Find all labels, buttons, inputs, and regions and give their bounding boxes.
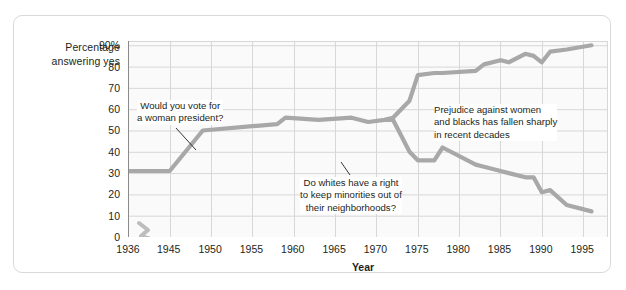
y-tick-label: 20 — [76, 189, 120, 199]
y-tick-label: 50 — [76, 125, 120, 135]
y-tick-label: 70 — [76, 83, 120, 93]
x-tick-label: 1980 — [436, 243, 480, 255]
y-tick-label: 40 — [76, 147, 120, 157]
y-tick-label: 30 — [76, 168, 120, 178]
x-tick-label: 1960 — [271, 243, 315, 255]
y-tick-label: 80 — [76, 62, 120, 72]
y-tick-label: 60 — [76, 104, 120, 114]
x-tick-label: 1955 — [229, 243, 273, 255]
white-neighborhoods-annotation: Do whites have a right to keep minoritie… — [300, 177, 402, 214]
x-tick-label: 1950 — [188, 243, 232, 255]
axis-break-icon — [139, 223, 168, 237]
x-tick-label: 1970 — [353, 243, 397, 255]
figure-container: Percentage answering yes 010203040506070… — [0, 0, 626, 290]
prejudice-annotation: Prejudice against women and blacks has f… — [434, 104, 557, 141]
x-tick-label: 1995 — [560, 243, 604, 255]
x-tick-label: 1985 — [477, 243, 521, 255]
woman-president-annotation: Would you vote for a woman president? — [137, 100, 223, 125]
y-tick-label: 10 — [76, 211, 120, 221]
x-tick-label: 1965 — [312, 243, 356, 255]
x-tick-label: 1990 — [519, 243, 563, 255]
x-tick-label: 1945 — [147, 243, 191, 255]
x-tick-label: 1936 — [106, 243, 150, 255]
y-tick-label: 90% — [76, 40, 120, 50]
x-tick-label: 1975 — [395, 243, 439, 255]
x-axis-caption: Year — [323, 261, 403, 273]
y-tick-label: 0 — [76, 232, 120, 242]
